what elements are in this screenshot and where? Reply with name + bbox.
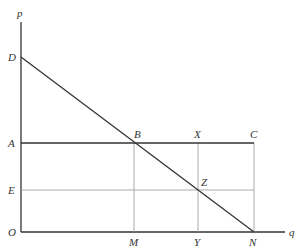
label-O: O: [8, 226, 16, 238]
label-p: p: [16, 7, 23, 19]
label-N: N: [248, 236, 257, 248]
label-A: A: [7, 137, 15, 149]
label-E: E: [7, 184, 15, 196]
label-M: M: [128, 236, 139, 248]
label-B: B: [134, 128, 141, 140]
label-X: X: [193, 128, 202, 140]
label-D: D: [7, 51, 16, 63]
line-D-N: [21, 57, 254, 232]
label-Y: Y: [194, 236, 202, 248]
label-q: q: [289, 226, 295, 238]
diagram-canvas: p q D A E O B X C Z M Y N: [0, 0, 304, 252]
label-Z: Z: [201, 176, 208, 188]
label-C: C: [250, 128, 258, 140]
